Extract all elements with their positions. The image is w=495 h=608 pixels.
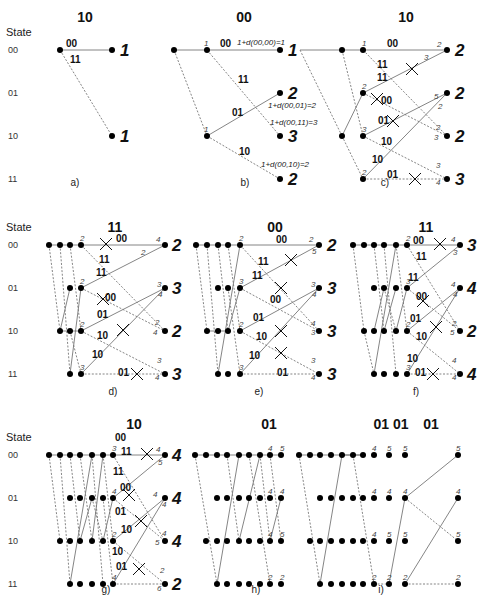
path-metric: 5 [280, 444, 285, 453]
branch-input-1 [342, 136, 363, 179]
branch-input-0 [374, 245, 396, 374]
branch-output-label: 00 [270, 294, 282, 305]
state-node [67, 285, 73, 291]
state-node [317, 495, 323, 501]
path-metric: 5 [403, 444, 408, 453]
branch-output-label: 01 [115, 506, 127, 517]
branch-input-1 [240, 245, 319, 331]
path-metric: 2 [436, 40, 442, 49]
branch-input-1 [249, 455, 270, 584]
path-metric: 4 [372, 530, 377, 539]
state-node [328, 538, 334, 544]
branch-output-label: 00 [416, 291, 428, 302]
metric-formula: 1+d(00,10)=2 [261, 160, 310, 169]
path-metric: 5 [450, 328, 455, 337]
path-metric: 4 [112, 573, 117, 582]
path-metric: 2 [238, 320, 244, 329]
branch-output-label: 10 [121, 524, 133, 535]
received-symbol: 10 [398, 9, 414, 25]
path-metric: 4 [372, 444, 377, 453]
state-node [67, 242, 73, 248]
path-metric: 2 [159, 566, 165, 575]
survivor-metric: 3 [172, 279, 182, 298]
branch-output-label: 10 [256, 331, 268, 342]
path-metric: 3 [311, 328, 316, 337]
branch-input-1 [196, 245, 207, 331]
path-metric: 6 [157, 584, 162, 593]
branch-output-label: 10 [381, 136, 393, 147]
state-label-11: 11 [8, 369, 17, 379]
path-metric: 3 [157, 356, 162, 365]
discard-cross-icon [141, 448, 153, 460]
branch-output-label: 11 [258, 256, 269, 267]
path-metric: 4 [452, 373, 457, 382]
received-symbol: 11 [419, 219, 434, 235]
state-node [225, 371, 231, 377]
path-metric: 2 [451, 319, 457, 328]
survivor-metric: 2 [171, 575, 182, 594]
path-metric: 2 [79, 234, 85, 243]
state-node [89, 452, 95, 458]
branch-output-label: 00 [381, 95, 393, 106]
state-node [215, 328, 221, 334]
state-node [204, 242, 210, 248]
path-metric: 4 [451, 235, 456, 244]
branch-output-label: 00 [115, 432, 127, 443]
discard-cross-icon [100, 238, 112, 250]
path-metric: 4 [155, 373, 160, 382]
state-node [215, 371, 221, 377]
state-label-00: 00 [8, 45, 18, 55]
branch-output-label: 01 [415, 367, 427, 378]
panel-caption: b) [241, 177, 250, 188]
branch-input-0 [342, 93, 363, 136]
path-metric: 4 [156, 445, 161, 454]
state-node [371, 371, 377, 377]
path-metric: 2 [435, 123, 441, 132]
state-node [277, 133, 283, 139]
state-node [57, 242, 63, 248]
state-node [381, 371, 387, 377]
state-node [203, 452, 209, 458]
branch-output-label: 01 [277, 367, 289, 378]
state-node [171, 47, 177, 53]
panel-caption: d) [109, 386, 118, 397]
branch-output-label: 01 [410, 313, 422, 324]
viterbi-trellis-figure: State0001101110001111a)00001101101112321… [0, 0, 495, 608]
branch-output-label: 11 [377, 72, 388, 83]
state-node [162, 452, 168, 458]
state-node [203, 538, 209, 544]
state-node [328, 452, 334, 458]
path-metric: 5 [387, 444, 392, 453]
branch-input-1 [364, 331, 374, 374]
survivor-metric: 4 [171, 532, 182, 551]
state-node [316, 242, 322, 248]
branch-output-label: 10 [249, 350, 261, 361]
path-metric: 3 [453, 248, 458, 257]
panel-e: 0000111100011010012323253443342333e) [193, 219, 337, 397]
branch-input-0 [405, 455, 458, 498]
state-node [67, 371, 73, 377]
survivor-metric: 4 [171, 489, 182, 508]
state-node [381, 242, 387, 248]
state-node [162, 328, 168, 334]
state-node [67, 538, 73, 544]
path-metric: 4 [403, 487, 408, 496]
state-node [236, 538, 242, 544]
path-metric: 2 [386, 573, 392, 582]
metric-formula: 1+d(00,00)=1 [237, 38, 285, 47]
branch-input-1 [353, 455, 374, 584]
survivor-metric: 4 [171, 446, 182, 465]
path-metric: 5 [312, 247, 317, 256]
path-metric: 3 [406, 277, 411, 286]
state-node [371, 242, 377, 248]
received-symbol: 00 [236, 9, 252, 25]
state-node [57, 47, 63, 53]
path-metric: 4 [311, 319, 316, 328]
path-metric: 2 [238, 234, 244, 243]
panel-caption: c) [381, 177, 389, 188]
state-node [444, 47, 450, 53]
panel-c: 1000111100011010011232235223342223c) [300, 9, 465, 189]
state-node [339, 581, 345, 587]
state-node [77, 495, 83, 501]
state-header-label: State [6, 431, 32, 443]
